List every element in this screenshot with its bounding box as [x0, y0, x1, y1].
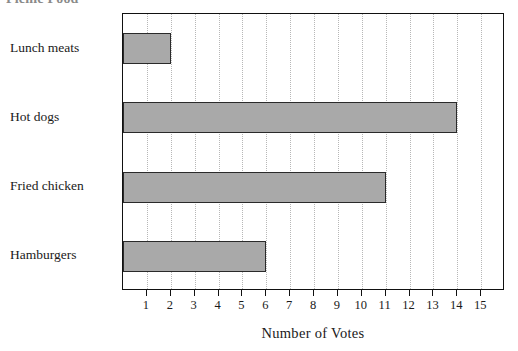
x-axis: 123456789101112131415	[122, 290, 504, 330]
x-tick-label-11: 11	[379, 299, 391, 312]
category-label: Hot dogs	[10, 110, 118, 124]
x-tick-mark-2	[170, 290, 171, 296]
x-tick-label-5: 5	[238, 299, 244, 312]
x-tick-label-9: 9	[334, 299, 340, 312]
x-tick-mark-1	[146, 290, 147, 296]
x-tick-label-3: 3	[191, 299, 197, 312]
bar	[123, 102, 457, 133]
x-tick-label-10: 10	[355, 299, 368, 312]
x-tick-label-4: 4	[214, 299, 220, 312]
plot-area	[122, 13, 504, 290]
x-tick-label-8: 8	[310, 299, 316, 312]
bars-layer	[123, 14, 503, 289]
x-tick-label-6: 6	[262, 299, 268, 312]
x-tick-label-12: 12	[402, 299, 415, 312]
x-tick-label-13: 13	[426, 299, 439, 312]
x-tick-label-15: 15	[474, 299, 487, 312]
x-tick-mark-11	[385, 290, 386, 296]
x-tick-mark-13	[432, 290, 433, 296]
bar	[123, 172, 386, 203]
x-tick-mark-8	[313, 290, 314, 296]
bar	[123, 241, 266, 272]
x-tick-mark-7	[289, 290, 290, 296]
x-tick-mark-10	[361, 290, 362, 296]
x-tick-label-7: 7	[286, 299, 292, 312]
category-label: Lunch meats	[10, 41, 118, 55]
x-tick-label-14: 14	[450, 299, 463, 312]
x-tick-mark-3	[194, 290, 195, 296]
x-axis-title: Number of Votes	[122, 325, 504, 342]
x-tick-mark-9	[337, 290, 338, 296]
x-tick-mark-14	[456, 290, 457, 296]
x-tick-mark-5	[241, 290, 242, 296]
x-tick-mark-12	[409, 290, 410, 296]
x-tick-mark-15	[480, 290, 481, 296]
category-label: Hamburgers	[10, 248, 118, 262]
x-tick-mark-4	[218, 290, 219, 296]
x-tick-mark-6	[265, 290, 266, 296]
bar	[123, 33, 171, 64]
chart-title: Picnic Food	[6, 0, 79, 7]
category-label: Fried chicken	[10, 179, 118, 193]
x-tick-label-1: 1	[143, 299, 149, 312]
x-tick-label-2: 2	[167, 299, 173, 312]
